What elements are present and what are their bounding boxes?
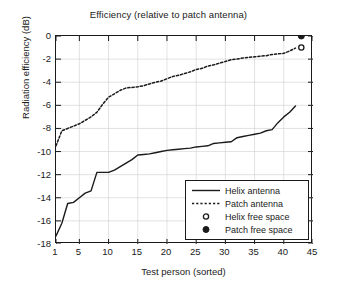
y-tick-label: -6 xyxy=(5,99,51,110)
chart-title: Efficiency (relative to patch antenna) xyxy=(0,9,337,20)
x-tick-label: 25 xyxy=(190,246,201,257)
marker-helix-free-space xyxy=(299,45,304,50)
legend-label: Patch antenna xyxy=(223,199,283,209)
chart-figure: Efficiency (relative to patch antenna) R… xyxy=(0,0,337,289)
x-tick-label: 35 xyxy=(248,246,259,257)
legend-label: Helix free space xyxy=(223,212,290,222)
marker-patch-free-space xyxy=(298,36,304,39)
x-tick-label: 1 xyxy=(52,246,57,257)
x-axis-tick-labels: 151015202530354045 xyxy=(55,246,312,260)
x-tick-label: 30 xyxy=(219,246,230,257)
x-tick-label: 45 xyxy=(307,246,318,257)
series-line-patch-antenna xyxy=(56,48,295,146)
x-tick-label: 20 xyxy=(161,246,172,257)
legend-symbol-dotted-line xyxy=(189,197,223,210)
chart-legend: Helix antennaPatch antennaHelix free spa… xyxy=(185,180,309,240)
y-tick-label: -18 xyxy=(5,238,51,249)
legend-label: Patch free space xyxy=(223,225,293,235)
y-tick-label: -12 xyxy=(5,168,51,179)
y-tick-label: -8 xyxy=(5,122,51,133)
y-axis-tick-labels: 0-2-4-6-8-10-12-14-16-18 xyxy=(0,35,51,243)
x-axis-label: Test person (sorted) xyxy=(55,266,312,277)
legend-symbol-filled-circle xyxy=(189,223,223,236)
legend-item: Helix free space xyxy=(189,210,304,223)
y-tick-label: 0 xyxy=(5,30,51,41)
legend-item: Helix antenna xyxy=(189,184,304,197)
legend-item: Patch antenna xyxy=(189,197,304,210)
y-tick-label: -10 xyxy=(5,145,51,156)
legend-symbol-open-circle xyxy=(189,210,223,223)
legend-symbol-solid-line xyxy=(189,184,223,197)
x-tick-label: 5 xyxy=(76,246,81,257)
y-tick-label: -16 xyxy=(5,214,51,225)
x-tick-label: 15 xyxy=(131,246,142,257)
x-tick-label: 10 xyxy=(102,246,113,257)
y-tick-label: -4 xyxy=(5,76,51,87)
legend-item: Patch free space xyxy=(189,223,304,236)
legend-label: Helix antenna xyxy=(223,186,280,196)
y-tick-label: -14 xyxy=(5,191,51,202)
x-tick-label: 40 xyxy=(277,246,288,257)
y-tick-label: -2 xyxy=(5,53,51,64)
